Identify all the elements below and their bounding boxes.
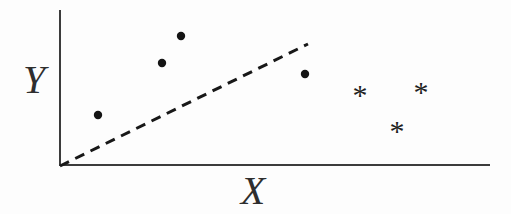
data-point-dot (301, 70, 309, 78)
dashed-separator-line (60, 44, 308, 166)
plot-layer: *** (59, 10, 490, 166)
scatter-plot-svg: *** Y X (0, 0, 511, 214)
data-point-asterisk: * (390, 114, 405, 147)
data-point-dot (158, 59, 166, 67)
data-point-asterisk: * (414, 75, 429, 108)
data-point-dot (177, 32, 185, 40)
x-axis-label: X (239, 168, 267, 213)
y-axis-label: Y (23, 57, 49, 102)
data-point-dot (94, 111, 102, 119)
scatter-figure: *** Y X (0, 0, 511, 214)
data-point-asterisk: * (353, 78, 368, 111)
